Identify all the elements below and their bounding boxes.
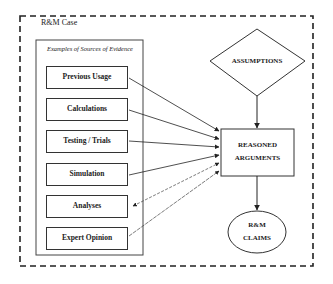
evidence-analyses: Analyses [46,195,128,218]
reasoned-arguments-line1: REASONED [221,139,294,152]
claims-line1: R&M [228,219,286,232]
reasoned-arguments-label: REASONED ARGUMENTS [221,139,294,165]
rm-case-label: R&M Case [41,18,77,27]
evidence-simulation: Simulation [46,163,128,186]
evidence-calculations: Calculations [46,98,128,121]
claims-line2: CLAIMS [228,232,286,245]
arrow-analyses [133,163,219,206]
evidence-previous-usage: Previous Usage [46,66,128,89]
assumptions-label: ASSUMPTIONS [215,55,299,68]
claims-label: R&M CLAIMS [228,219,286,245]
evidence-expert-opinion: Expert Opinion [46,227,128,250]
evidence-testing-trials: Testing / Trials [46,130,128,153]
evidence-group-label: Examples of Sources of Evidence [37,45,143,52]
reasoned-arguments-line2: ARGUMENTS [221,152,294,165]
